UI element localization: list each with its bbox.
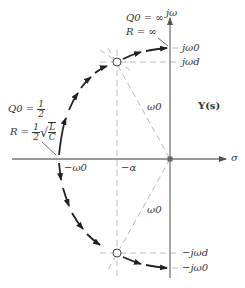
r-half-fraction: 12 bbox=[32, 123, 40, 142]
neg-j-omega0-label: −jω0 bbox=[182, 263, 208, 273]
r-infinity-pointer bbox=[158, 38, 168, 46]
r-half-label: R = bbox=[10, 126, 29, 137]
upper-pole-circle bbox=[113, 58, 121, 66]
root-locus-diagram bbox=[0, 0, 245, 288]
q-half-fraction: 12 bbox=[37, 100, 45, 119]
admittance-title: Y(s) bbox=[198, 101, 220, 111]
q-infinity-label: Q0 = ∞ bbox=[126, 13, 164, 23]
q-half-annotation: Q0 = 12 bbox=[8, 100, 45, 119]
neg-j-omega-d-label: −jωd bbox=[182, 248, 208, 258]
neg-alpha-label: −α bbox=[121, 163, 136, 173]
r-half-annotation: R = 12√LC bbox=[10, 122, 56, 142]
j-omega0-label: jω0 bbox=[182, 43, 200, 53]
j-omega-d-label: jωd bbox=[182, 57, 200, 67]
sqrt-fraction: LC bbox=[48, 122, 56, 142]
upper-radius-label: ω0 bbox=[147, 102, 162, 112]
lower-pole-circle bbox=[113, 249, 121, 257]
lower-radius-label: ω0 bbox=[147, 205, 162, 215]
sigma-axis-label: σ bbox=[231, 153, 238, 163]
r-half-pointer bbox=[42, 142, 56, 155]
r-infinity-label: R = ∞ bbox=[126, 27, 157, 37]
j-omega-axis-label: jω bbox=[166, 8, 177, 18]
sqrt-symbol: √ bbox=[40, 125, 48, 140]
origin-zero-marker bbox=[168, 157, 173, 162]
q-half-label: Q0 = bbox=[8, 103, 34, 114]
neg-omega0-label: −ω0 bbox=[64, 163, 87, 173]
